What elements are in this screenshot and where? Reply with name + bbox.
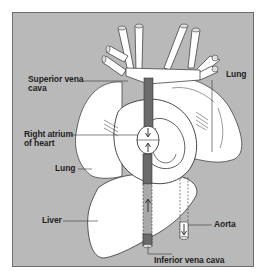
label-lung-right: Lung [226, 70, 246, 79]
label-lung-left: Lung [55, 164, 75, 173]
label-superior-vena-cava: Superior vena cava [28, 75, 83, 93]
upper-vessels [102, 26, 220, 84]
label-aorta: Aorta [214, 220, 236, 229]
label-liver: Liver [42, 216, 62, 225]
inferior-vena-cava-upper [143, 154, 152, 184]
liver-shape [88, 174, 197, 258]
label-right-atrium: Right atrium of heart [24, 130, 73, 148]
label-inferior-vena-cava: Inferior vena cava [154, 256, 225, 265]
